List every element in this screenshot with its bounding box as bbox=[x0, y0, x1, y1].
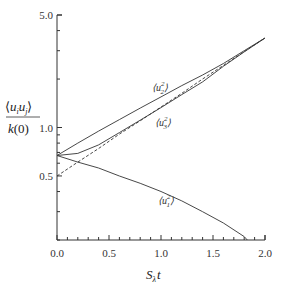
series-line-3 bbox=[57, 156, 247, 241]
x-tick-label: 1.5 bbox=[206, 247, 220, 259]
y-tick-label: 1.0 bbox=[39, 122, 53, 134]
x-tick-label: 1.0 bbox=[154, 247, 168, 259]
series-label-u2: ⟨u22⟩ bbox=[152, 80, 168, 96]
series-label-u3: ⟨u23⟩ bbox=[155, 115, 171, 131]
y-tick-label: 5.0 bbox=[39, 9, 53, 21]
y-axis-title-denominator: k(0) bbox=[8, 121, 29, 136]
series-line-2 bbox=[57, 38, 265, 176]
x-axis-title: Sλt bbox=[146, 267, 161, 284]
chart: 0.00.51.01.52.00.51.05.0 ⟨uiuj⟩ k(0) Sλt… bbox=[0, 0, 282, 288]
series-line-0 bbox=[57, 38, 265, 156]
series-lines bbox=[57, 38, 265, 240]
y-axis-title: ⟨uiuj⟩ k(0) bbox=[5, 99, 40, 136]
series-label-u1: ⟨u21⟩ bbox=[158, 193, 174, 209]
tick-labels: 0.00.51.01.52.00.51.05.0 bbox=[39, 9, 272, 259]
y-tick-label: 0.5 bbox=[39, 170, 53, 182]
x-tick-label: 2.0 bbox=[258, 247, 272, 259]
x-axis-title-text: Sλt bbox=[146, 267, 161, 284]
x-tick-label: 0.5 bbox=[102, 247, 116, 259]
y-axis-title-numerator: ⟨uiuj⟩ bbox=[5, 99, 32, 116]
x-tick-label: 0.0 bbox=[50, 247, 64, 259]
